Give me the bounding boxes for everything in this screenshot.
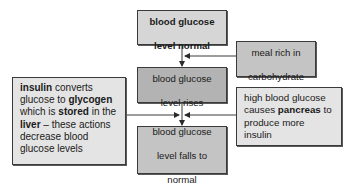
node-pancreas-response: high blood glucose causes pancreas to pr… [236,87,342,146]
node-rises-line2: level rises [161,97,204,108]
glycogen-term: glycogen [68,94,112,105]
node-meal-line2: carbohydrate [248,71,304,82]
node-normal-line2: level normal [154,40,210,51]
node-rises-line1: blood glucose [152,73,211,84]
pancreas-term: pancreas [278,104,321,115]
node-glucose-rises: blood glucose level rises [137,67,227,103]
insulin-term: insulin [20,82,52,93]
insulin-text-4: which is [20,106,58,117]
node-falls-line2: level falls to [157,150,207,161]
liver-term: liver [20,119,41,130]
node-normal-line1: blood glucose [149,16,214,27]
node-glucose-falls: blood glucose level falls to normal [137,126,227,174]
node-falls-line1: blood glucose [152,126,211,137]
node-glucose-normal: blood glucose level normal [137,10,227,45]
node-falls-line3: normal [167,174,196,184]
node-insulin-action: insulin converts glucose to glycogen whi… [12,77,126,165]
stored-term: stored [58,106,89,117]
node-meal-line1: meal rich in [251,47,300,58]
insulin-text-6: in the [89,106,116,117]
node-meal-carbohydrate: meal rich in carbohydrate [236,41,316,77]
